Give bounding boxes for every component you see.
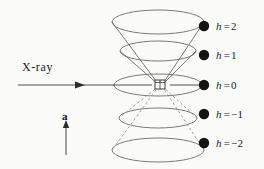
cone-label-h-2-value: −2 bbox=[231, 137, 243, 149]
cone-label-h0: h=0 bbox=[216, 79, 237, 91]
diffraction-spot-h-2 bbox=[199, 138, 209, 148]
cone-label-h-1: h=−1 bbox=[216, 108, 243, 120]
cone-label-h-1-value: −1 bbox=[231, 108, 243, 120]
cone-label-h-2-relation: = bbox=[223, 137, 231, 149]
cone-generator-h-2-right bbox=[162, 86, 204, 150]
cone-label-h1-value: 1 bbox=[231, 49, 237, 61]
diffraction-spot-h2 bbox=[199, 21, 209, 31]
cone-label-h2-symbol: h bbox=[216, 20, 223, 32]
cone-h-1 bbox=[119, 86, 197, 128]
cone-generator-h1-left bbox=[120, 51, 159, 85]
cone-label-h0-symbol: h bbox=[216, 79, 223, 91]
xray-beam-label: X-ray bbox=[22, 60, 53, 75]
incident-beam bbox=[18, 82, 203, 89]
rotation-axis-arrow bbox=[63, 120, 69, 155]
crystal-sample bbox=[155, 80, 165, 89]
cone-label-h-2-symbol: h bbox=[216, 137, 223, 149]
xray-cone-diagram: X-ray a h=2 h=1 h=0 h=−1 h=−2 bbox=[0, 0, 264, 169]
cone-label-h2: h=2 bbox=[216, 20, 237, 32]
cone-rim-h2 bbox=[112, 10, 204, 34]
cone-label-h2-value: 2 bbox=[231, 20, 237, 32]
cone-generator-h1-right bbox=[162, 51, 196, 85]
cone-label-h0-value: 0 bbox=[231, 79, 237, 91]
cone-label-h1-relation: = bbox=[223, 49, 231, 61]
cone-label-h2-relation: = bbox=[223, 20, 231, 32]
cone-rim-h-2 bbox=[112, 138, 204, 162]
cone-label-h0-relation: = bbox=[223, 79, 231, 91]
rotation-axis-label: a bbox=[62, 110, 68, 122]
diffraction-spot-h1 bbox=[199, 50, 209, 60]
cone-label-h1-symbol: h bbox=[216, 49, 223, 61]
beam-arrowhead bbox=[75, 82, 85, 89]
cone-label-h-1-symbol: h bbox=[216, 108, 223, 120]
cone-label-h1: h=1 bbox=[216, 49, 237, 61]
diffraction-spot-h-1 bbox=[199, 109, 209, 119]
diffraction-spots bbox=[199, 21, 209, 148]
cone-generator-h-1-left bbox=[119, 86, 159, 118]
diffraction-spot-h0 bbox=[199, 80, 209, 90]
cone-label-h-2: h=−2 bbox=[216, 137, 243, 149]
cone-rim-h-1 bbox=[119, 108, 197, 128]
cone-label-h-1-relation: = bbox=[223, 108, 231, 120]
